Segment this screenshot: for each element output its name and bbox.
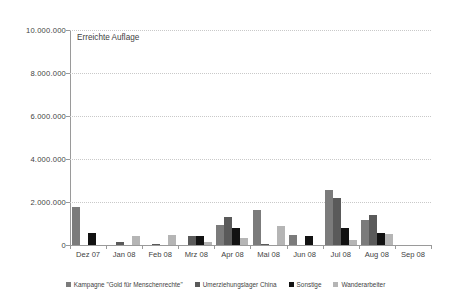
legend-label: Umerziehungslager China xyxy=(203,281,277,288)
x-tick-label: Jul 08 xyxy=(331,250,351,259)
legend-item[interactable]: Wanderarbeiter xyxy=(333,281,385,288)
x-tick-label: Aug 08 xyxy=(365,250,389,259)
legend-item[interactable]: Umerziehungslager China xyxy=(195,281,277,288)
y-tick-label: 10.000.000 xyxy=(26,26,66,35)
legend-label: Sonstige xyxy=(297,281,322,288)
x-tick-label: Mrz 08 xyxy=(185,250,208,259)
x-tick-label: Jan 08 xyxy=(113,250,136,259)
x-tick-label: Sep 08 xyxy=(401,250,425,259)
chart-legend: Kampagne "Gold für Menschenrechte"Umerzi… xyxy=(0,281,451,288)
y-tick-label: 0 xyxy=(62,241,66,250)
legend-swatch-icon xyxy=(333,282,338,287)
y-tick-label: 6.000.000 xyxy=(30,112,66,121)
x-tick-label: Dez 07 xyxy=(76,250,100,259)
legend-swatch-icon xyxy=(195,282,200,287)
legend-swatch-icon xyxy=(289,282,294,287)
y-tick-label: 8.000.000 xyxy=(30,69,66,78)
x-tick-label: Feb 08 xyxy=(148,250,172,259)
x-tick-label: Mai 08 xyxy=(257,250,280,259)
x-tick-label: Apr 08 xyxy=(221,250,243,259)
y-tick-label: 4.000.000 xyxy=(30,155,66,164)
legend-item[interactable]: Kampagne "Gold für Menschenrechte" xyxy=(66,281,183,288)
bar-chart: 02.000.0004.000.0006.000.0008.000.00010.… xyxy=(0,0,451,300)
legend-label: Kampagne "Gold für Menschenrechte" xyxy=(74,281,183,288)
x-tick-label: Jun 08 xyxy=(293,250,316,259)
legend-swatch-icon xyxy=(66,282,71,287)
plot-title: Erreichte Auflage xyxy=(77,33,139,42)
legend-label: Wanderarbeiter xyxy=(341,281,385,288)
legend-item[interactable]: Sonstige xyxy=(289,281,322,288)
y-tick-label: 2.000.000 xyxy=(30,198,66,207)
